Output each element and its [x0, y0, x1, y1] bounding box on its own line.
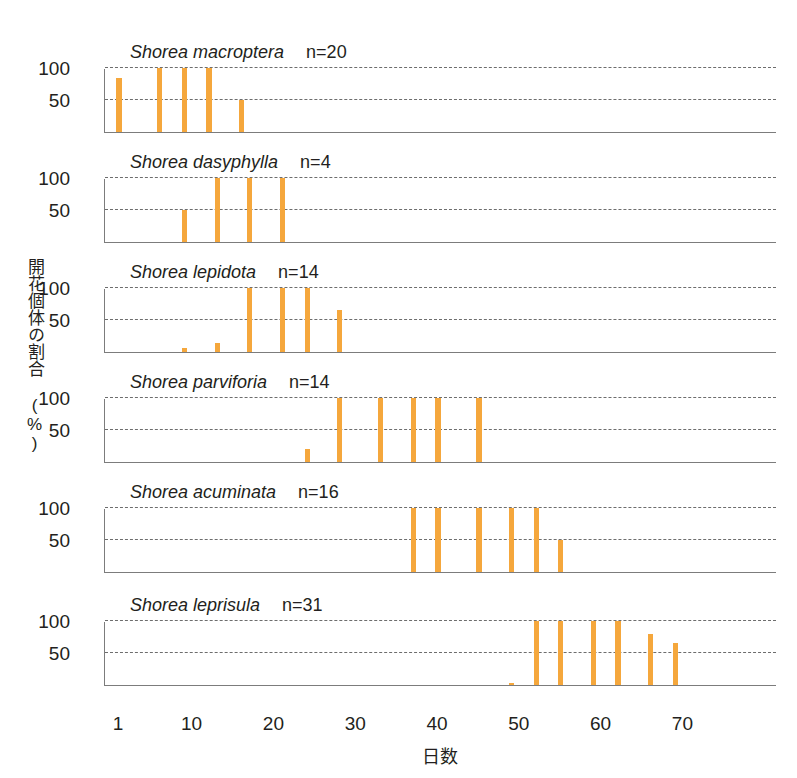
y-axis-tick-label: 50: [10, 91, 70, 110]
gridline: [105, 209, 776, 210]
bar: [280, 288, 285, 352]
bar: [509, 683, 514, 685]
x-axis-tick-label: 70: [672, 713, 693, 735]
bar: [509, 508, 514, 572]
bar: [337, 398, 342, 462]
bar: [182, 348, 187, 352]
x-axis-tick-label: 60: [590, 713, 611, 735]
y-axis-tick-label: 50: [10, 531, 70, 550]
species-name: Shorea macroptera: [130, 42, 284, 62]
y-axis-tick-label: 50: [10, 644, 70, 663]
x-axis-tick-label: 40: [426, 713, 447, 735]
bar: [305, 449, 310, 462]
plot-area: 10050: [104, 289, 776, 353]
gridline: [105, 319, 776, 320]
species-name: Shorea lepidota: [130, 262, 256, 282]
panel-title: Shorea dasyphyllan=4: [130, 152, 331, 172]
panel-title: Shorea acuminatan=16: [130, 482, 339, 502]
x-axis-title: 日数: [104, 742, 776, 768]
sample-size-label: n=14: [289, 372, 330, 392]
sample-size-label: n=14: [278, 262, 319, 282]
chart-panel: Shorea leprisulan=3110050: [104, 622, 776, 686]
bar: [411, 508, 416, 572]
panel-title: Shorea parviforian=14: [130, 372, 330, 392]
y-axis-tick-label: 50: [10, 311, 70, 330]
bar: [648, 634, 653, 685]
bar: [435, 508, 440, 572]
panel-title: Shorea lepidotan=14: [130, 262, 319, 282]
flowering-phenology-chart: 開花個体の割合 (%) Shorea macropteran=2010050Sh…: [0, 0, 797, 778]
bar: [247, 178, 252, 242]
bar: [157, 68, 162, 132]
chart-panel: Shorea acuminatan=1610050: [104, 509, 776, 573]
bar: [182, 68, 187, 132]
plot-area: 10050: [104, 399, 776, 463]
y-axis-tick-label: 100: [10, 612, 70, 631]
bar: [476, 508, 481, 572]
chart-panel: Shorea lepidotan=1410050: [104, 289, 776, 353]
y-axis-tick-label: 50: [10, 201, 70, 220]
sample-size-label: n=4: [300, 152, 331, 172]
bar: [378, 398, 383, 462]
plot-area: 10050: [104, 622, 776, 686]
x-axis-tick-label: 20: [263, 713, 284, 735]
bar: [239, 100, 244, 132]
y-axis-tick-label: 50: [10, 421, 70, 440]
y-axis-tick-label: 100: [10, 59, 70, 78]
y-axis-tick-label: 100: [10, 499, 70, 518]
bar: [673, 643, 678, 685]
bar: [182, 210, 187, 242]
bar: [305, 288, 310, 352]
species-name: Shorea acuminata: [130, 482, 276, 502]
gridline: [105, 620, 776, 621]
x-axis-ticks: 110203040506070: [104, 713, 776, 743]
bar: [558, 540, 563, 572]
bar: [435, 398, 440, 462]
bar: [411, 398, 416, 462]
bar: [215, 343, 220, 352]
bar: [534, 621, 539, 685]
panel-title: Shorea leprisulan=31: [130, 595, 323, 615]
plot-area: 10050: [104, 69, 776, 133]
panel-title: Shorea macropteran=20: [130, 42, 347, 62]
bar: [558, 621, 563, 685]
x-axis-tick-label: 10: [181, 713, 202, 735]
x-axis-tick-label: 50: [508, 713, 529, 735]
bar: [116, 78, 121, 132]
bar: [615, 621, 620, 685]
sample-size-label: n=16: [298, 482, 339, 502]
species-name: Shorea dasyphylla: [130, 152, 278, 172]
bar: [534, 508, 539, 572]
sample-size-label: n=20: [306, 42, 347, 62]
y-axis-tick-label: 100: [10, 389, 70, 408]
sample-size-label: n=31: [282, 595, 323, 615]
bar: [591, 621, 596, 685]
x-axis-tick-label: 30: [345, 713, 366, 735]
x-axis-tick-label: 1: [113, 713, 124, 735]
plot-area: 10050: [104, 179, 776, 243]
chart-panel: Shorea macropteran=2010050: [104, 69, 776, 133]
plot-area: 10050: [104, 509, 776, 573]
chart-panel: Shorea dasyphyllan=410050: [104, 179, 776, 243]
gridline: [105, 287, 776, 288]
bar: [247, 288, 252, 352]
species-name: Shorea leprisula: [130, 595, 260, 615]
bar: [206, 68, 211, 132]
chart-panel: Shorea parviforian=1410050: [104, 399, 776, 463]
bar: [280, 178, 285, 242]
y-axis-tick-label: 100: [10, 279, 70, 298]
gridline: [105, 177, 776, 178]
bar: [337, 310, 342, 352]
species-name: Shorea parviforia: [130, 372, 267, 392]
y-axis-tick-label: 100: [10, 169, 70, 188]
bar: [476, 398, 481, 462]
bar: [215, 178, 220, 242]
